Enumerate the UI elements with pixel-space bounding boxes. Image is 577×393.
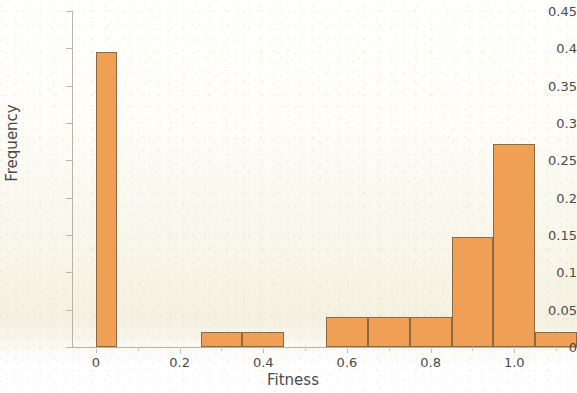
x-axis-tick-label: 0.8 (406, 355, 456, 370)
y-axis-tick-label: 0.3 (519, 116, 577, 131)
y-axis-tick (66, 11, 73, 12)
y-axis-tick (66, 198, 73, 199)
y-axis-tick-label: 0.45 (519, 4, 577, 19)
histogram-bar (201, 332, 243, 347)
x-axis-minor-tick (556, 347, 557, 351)
histogram-bar (242, 332, 284, 347)
x-axis-minor-tick (263, 347, 264, 351)
histogram-bar (326, 317, 368, 347)
x-axis-tick-label: 0.6 (322, 355, 372, 370)
y-axis-tick-label: 0.4 (519, 41, 577, 56)
x-axis-minor-tick (347, 347, 348, 351)
x-axis-minor-tick (472, 347, 473, 351)
histogram-bar (452, 237, 494, 347)
x-axis-minor-tick (221, 347, 222, 351)
y-axis-tick (66, 86, 73, 87)
histogram-bar (96, 52, 117, 347)
x-axis-title: Fitness (73, 371, 513, 389)
plot-area (73, 11, 577, 347)
y-axis-tick-label: 0.2 (519, 190, 577, 205)
x-axis-minor-tick (431, 347, 432, 351)
y-axis-tick (66, 347, 73, 348)
y-axis-tick (66, 48, 73, 49)
x-axis-tick-label: 0.4 (238, 355, 288, 370)
histogram-bar (368, 317, 410, 347)
y-axis-title: Frequency (3, 53, 21, 233)
y-axis-tick-label: 0.35 (519, 78, 577, 93)
histogram-figure: Frequency Fitness 00.050.10.150.20.250.3… (0, 0, 577, 393)
x-axis-line (72, 347, 577, 348)
x-axis-minor-tick (96, 347, 97, 351)
y-axis-tick (66, 310, 73, 311)
y-axis-tick-label: 0.1 (519, 265, 577, 280)
x-axis-minor-tick (180, 347, 181, 351)
y-axis-tick-label: 0 (519, 340, 577, 355)
y-axis-tick (66, 272, 73, 273)
y-axis-line (72, 11, 73, 348)
x-axis-tick-label: 0 (71, 355, 121, 370)
y-axis-tick (66, 160, 73, 161)
y-axis-tick (66, 123, 73, 124)
x-axis-tick-label: 1.0 (489, 355, 539, 370)
y-axis-tick (66, 235, 73, 236)
x-axis-tick-label: 0.2 (155, 355, 205, 370)
x-axis-minor-tick (514, 347, 515, 351)
y-axis-tick-label: 0.15 (519, 228, 577, 243)
x-axis-minor-tick (389, 347, 390, 351)
x-axis-minor-tick (138, 347, 139, 351)
y-axis-tick-label: 0.25 (519, 153, 577, 168)
histogram-bar (410, 317, 452, 347)
x-axis-minor-tick (305, 347, 306, 351)
y-axis-tick-label: 0.05 (519, 302, 577, 317)
